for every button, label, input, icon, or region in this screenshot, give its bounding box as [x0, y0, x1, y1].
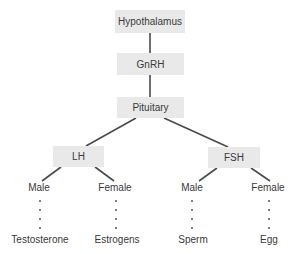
line-pituitary-lh — [86, 118, 136, 146]
branch-fsh-male: Male — [181, 182, 203, 193]
node-pituitary: Pituitary — [117, 97, 184, 118]
dotted-line-fsh-female — [268, 200, 270, 229]
branch-lh-male: Male — [28, 182, 50, 193]
outcome-testosterone: Testosterone — [11, 234, 68, 245]
node-fsh-label: FSH — [224, 152, 244, 163]
outcome-sperm: Sperm — [178, 234, 207, 245]
outcome-egg: Egg — [260, 234, 278, 245]
line-lh-male — [42, 167, 61, 181]
node-gnrh-label: GnRH — [137, 59, 165, 70]
branch-fsh-female: Female — [251, 182, 284, 193]
line-lh-female — [95, 167, 114, 181]
node-gnrh: GnRH — [117, 53, 184, 75]
node-hypothalamus: Hypothalamus — [115, 10, 185, 33]
line-fsh-male — [199, 168, 217, 181]
line-pituitary-fsh — [164, 118, 228, 147]
branch-lh-female: Female — [98, 182, 131, 193]
dotted-line-fsh-male — [191, 200, 193, 229]
connector-lines — [0, 0, 294, 254]
node-fsh: FSH — [208, 147, 260, 168]
node-hypothalamus-label: Hypothalamus — [118, 16, 182, 27]
dotted-line-lh-male — [39, 200, 41, 229]
line-fsh-female — [251, 168, 270, 181]
dotted-line-lh-female — [115, 200, 117, 229]
node-lh-label: LH — [72, 151, 85, 162]
outcome-estrogens: Estrogens — [94, 234, 139, 245]
node-pituitary-label: Pituitary — [132, 102, 168, 113]
node-lh: LH — [53, 146, 104, 167]
